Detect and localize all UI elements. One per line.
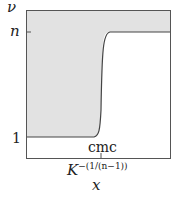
x-axis-label: x	[92, 178, 100, 193]
y-tick-1: 1	[12, 131, 21, 145]
y-axis-label: ν	[7, 0, 16, 15]
cmc-annotation: cmc	[88, 140, 117, 154]
x-tick-base: K	[67, 161, 78, 179]
x-tick-exponent: −(1/(n−1))	[78, 161, 127, 171]
y-tick-n: n	[10, 24, 20, 39]
shaded-region	[27, 11, 170, 137]
